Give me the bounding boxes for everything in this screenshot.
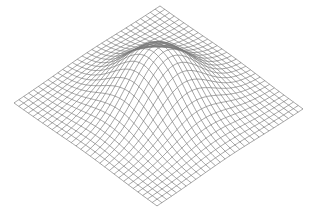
wireframe-figure <box>0 0 313 213</box>
gaussian-surface-mesh <box>0 0 313 213</box>
